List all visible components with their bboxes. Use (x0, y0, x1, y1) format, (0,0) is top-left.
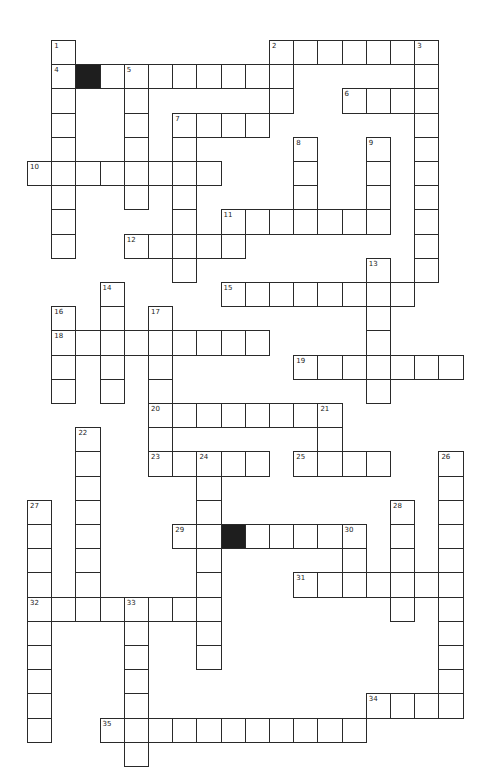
crossword-cell[interactable] (221, 234, 246, 259)
crossword-cell[interactable] (317, 355, 342, 380)
crossword-cell[interactable] (51, 88, 76, 113)
crossword-cell[interactable] (342, 548, 367, 573)
crossword-cell[interactable] (245, 209, 270, 234)
crossword-cell[interactable] (438, 548, 463, 573)
crossword-cell[interactable] (100, 330, 125, 355)
crossword-cell[interactable] (27, 669, 52, 694)
crossword-cell[interactable] (245, 451, 270, 476)
crossword-cell[interactable]: 26 (438, 451, 463, 476)
crossword-cell[interactable]: 21 (317, 403, 342, 428)
crossword-cell[interactable]: 22 (75, 427, 100, 452)
crossword-cell[interactable] (75, 330, 100, 355)
crossword-cell[interactable]: 4 (51, 64, 76, 89)
crossword-cell[interactable] (27, 621, 52, 646)
crossword-cell[interactable] (172, 64, 197, 89)
crossword-cell[interactable] (172, 451, 197, 476)
crossword-cell[interactable] (75, 476, 100, 501)
crossword-cell[interactable] (414, 137, 439, 162)
crossword-cell[interactable] (148, 161, 173, 186)
crossword-cell[interactable]: 12 (124, 234, 149, 259)
crossword-cell[interactable] (390, 40, 415, 65)
crossword-cell[interactable] (245, 403, 270, 428)
crossword-cell[interactable] (390, 597, 415, 622)
crossword-cell[interactable] (51, 234, 76, 259)
crossword-cell[interactable] (342, 451, 367, 476)
crossword-cell[interactable] (221, 718, 246, 743)
crossword-cell[interactable] (148, 330, 173, 355)
crossword-cell[interactable] (100, 355, 125, 380)
crossword-cell[interactable] (342, 282, 367, 307)
crossword-cell[interactable] (172, 403, 197, 428)
crossword-cell[interactable]: 32 (27, 597, 52, 622)
crossword-cell[interactable] (196, 234, 221, 259)
crossword-cell[interactable] (390, 693, 415, 718)
crossword-cell[interactable] (317, 282, 342, 307)
crossword-cell[interactable] (51, 113, 76, 138)
crossword-cell[interactable] (51, 185, 76, 210)
crossword-cell[interactable] (414, 88, 439, 113)
crossword-cell[interactable] (366, 209, 391, 234)
crossword-cell[interactable] (390, 88, 415, 113)
crossword-cell[interactable] (269, 64, 294, 89)
crossword-cell[interactable]: 20 (148, 403, 173, 428)
crossword-cell[interactable] (148, 379, 173, 404)
crossword-cell[interactable] (414, 185, 439, 210)
crossword-cell[interactable] (438, 524, 463, 549)
crossword-cell[interactable]: 9 (366, 137, 391, 162)
crossword-cell[interactable] (317, 427, 342, 452)
crossword-cell[interactable] (27, 572, 52, 597)
crossword-cell[interactable] (293, 524, 318, 549)
crossword-cell[interactable] (293, 40, 318, 65)
crossword-cell[interactable] (269, 282, 294, 307)
crossword-cell[interactable]: 34 (366, 693, 391, 718)
crossword-cell[interactable] (196, 645, 221, 670)
crossword-cell[interactable] (124, 645, 149, 670)
crossword-cell[interactable] (124, 693, 149, 718)
crossword-cell[interactable] (27, 524, 52, 549)
crossword-cell[interactable] (293, 403, 318, 428)
crossword-cell[interactable]: 14 (100, 282, 125, 307)
crossword-cell[interactable]: 3 (414, 40, 439, 65)
crossword-cell[interactable] (75, 161, 100, 186)
crossword-cell[interactable] (414, 355, 439, 380)
crossword-cell[interactable]: 31 (293, 572, 318, 597)
crossword-cell[interactable] (124, 669, 149, 694)
crossword-cell[interactable] (196, 621, 221, 646)
crossword-cell[interactable] (124, 742, 149, 767)
crossword-cell[interactable] (221, 330, 246, 355)
crossword-cell[interactable]: 13 (366, 258, 391, 283)
crossword-cell[interactable] (414, 64, 439, 89)
crossword-cell[interactable] (221, 64, 246, 89)
crossword-cell[interactable] (100, 379, 125, 404)
crossword-cell[interactable]: 10 (27, 161, 52, 186)
crossword-cell[interactable] (366, 306, 391, 331)
crossword-cell[interactable] (172, 209, 197, 234)
crossword-cell[interactable] (414, 113, 439, 138)
crossword-cell[interactable] (196, 403, 221, 428)
crossword-cell[interactable] (27, 548, 52, 573)
crossword-cell[interactable] (438, 621, 463, 646)
crossword-cell[interactable] (366, 451, 391, 476)
crossword-cell[interactable]: 18 (51, 330, 76, 355)
crossword-cell[interactable] (148, 234, 173, 259)
crossword-cell[interactable] (100, 597, 125, 622)
crossword-cell[interactable] (196, 330, 221, 355)
crossword-cell[interactable] (124, 718, 149, 743)
crossword-cell[interactable] (221, 451, 246, 476)
crossword-cell[interactable] (196, 113, 221, 138)
crossword-cell[interactable]: 15 (221, 282, 246, 307)
crossword-cell[interactable] (148, 427, 173, 452)
crossword-cell[interactable] (390, 548, 415, 573)
crossword-cell[interactable] (148, 64, 173, 89)
crossword-cell[interactable]: 16 (51, 306, 76, 331)
crossword-cell[interactable] (269, 718, 294, 743)
crossword-cell[interactable] (196, 597, 221, 622)
crossword-cell[interactable]: 33 (124, 597, 149, 622)
crossword-cell[interactable] (51, 137, 76, 162)
crossword-cell[interactable] (100, 161, 125, 186)
crossword-cell[interactable] (390, 355, 415, 380)
crossword-cell[interactable]: 35 (100, 718, 125, 743)
crossword-cell[interactable] (342, 40, 367, 65)
crossword-cell[interactable] (124, 621, 149, 646)
crossword-cell[interactable]: 17 (148, 306, 173, 331)
